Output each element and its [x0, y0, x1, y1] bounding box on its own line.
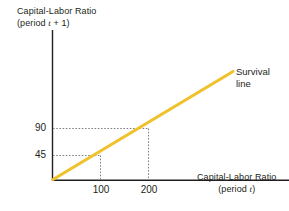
y-tick-label-90: 90 [6, 123, 46, 133]
survival-line-series [53, 72, 233, 180]
x-axis-title-line-2-post: ) [252, 184, 255, 194]
y-tick-label-45: 45 [6, 150, 46, 160]
x-tick-label-200: 200 [128, 185, 170, 195]
x-tick-label-100: 100 [80, 185, 122, 195]
chart-figure: Capital-Labor Ratio (period t + 1) 90 45… [0, 0, 289, 211]
survival-line-annotation-line-2: line [236, 78, 251, 89]
survival-line-annotation: Survival line [236, 66, 270, 89]
x-axis-title-line-1: Capital-Labor Ratio [197, 172, 276, 182]
x-axis-title: Capital-Labor Ratio (period t) [197, 172, 276, 195]
survival-line-annotation-line-1: Survival [236, 66, 270, 77]
x-axis-title-line-2-pre: (period [218, 184, 249, 194]
